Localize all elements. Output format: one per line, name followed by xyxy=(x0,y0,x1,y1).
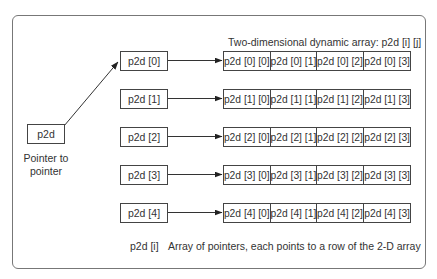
array-cell: p2d [3] [1] xyxy=(271,166,318,184)
legend-key: p2d [i] xyxy=(130,240,159,252)
row-pointer-4: p2d [4] xyxy=(120,203,168,223)
array-cell: p2d [1] [1] xyxy=(271,90,318,108)
row-pointer-0: p2d [0] xyxy=(120,51,168,71)
array-row-0: p2d [0] [0] p2d [0] [1] p2d [0] [2] p2d … xyxy=(223,51,411,71)
row-pointer-2: p2d [2] xyxy=(120,127,168,147)
array-cell: p2d [3] [0] xyxy=(224,166,271,184)
array-cell: p2d [0] [1] xyxy=(271,52,318,70)
array-cell: p2d [2] [1] xyxy=(271,128,318,146)
pointer-box: p2d xyxy=(27,124,65,144)
array-cell: p2d [0] [2] xyxy=(317,52,364,70)
array-row-4: p2d [4] [0] p2d [4] [1] p2d [4] [2] p2d … xyxy=(223,203,411,223)
row-pointer-label: p2d [0] xyxy=(128,55,160,67)
row-pointer-label: p2d [1] xyxy=(128,93,160,105)
arrow-pointer-to-row0 xyxy=(64,62,118,126)
array-cell: p2d [4] [3] xyxy=(364,204,411,222)
array-cell: p2d [2] [0] xyxy=(224,128,271,146)
legend-description: Array of pointers, each points to a row … xyxy=(168,240,421,252)
array-cell: p2d [4] [1] xyxy=(271,204,318,222)
pointer-caption-line1: Pointer to xyxy=(18,152,74,165)
array-cell: p2d [1] [3] xyxy=(364,90,411,108)
array-cell: p2d [3] [2] xyxy=(317,166,364,184)
array-cell: p2d [0] [0] xyxy=(224,52,271,70)
array-row-3: p2d [3] [0] p2d [3] [1] p2d [3] [2] p2d … xyxy=(223,165,411,185)
pointer-label: p2d xyxy=(37,128,55,140)
row-pointer-label: p2d [4] xyxy=(128,207,160,219)
array-cell: p2d [0] [3] xyxy=(364,52,411,70)
array-row-2: p2d [2] [0] p2d [2] [1] p2d [2] [2] p2d … xyxy=(223,127,411,147)
pointer-caption-line2: pointer xyxy=(18,165,74,178)
array-cell: p2d [1] [2] xyxy=(317,90,364,108)
array-cell: p2d [2] [2] xyxy=(317,128,364,146)
array-cell: p2d [2] [3] xyxy=(364,128,411,146)
row-pointer-3: p2d [3] xyxy=(120,165,168,185)
diagram-title: Two-dimensional dynamic array: p2d [i] [… xyxy=(228,36,421,48)
array-cell: p2d [3] [3] xyxy=(364,166,411,184)
row-pointer-label: p2d [2] xyxy=(128,131,160,143)
row-pointer-label: p2d [3] xyxy=(128,169,160,181)
array-cell: p2d [4] [0] xyxy=(224,204,271,222)
pointer-caption: Pointer to pointer xyxy=(18,152,74,178)
array-row-1: p2d [1] [0] p2d [1] [1] p2d [1] [2] p2d … xyxy=(223,89,411,109)
row-pointer-1: p2d [1] xyxy=(120,89,168,109)
array-cell: p2d [1] [0] xyxy=(224,90,271,108)
array-cell: p2d [4] [2] xyxy=(317,204,364,222)
